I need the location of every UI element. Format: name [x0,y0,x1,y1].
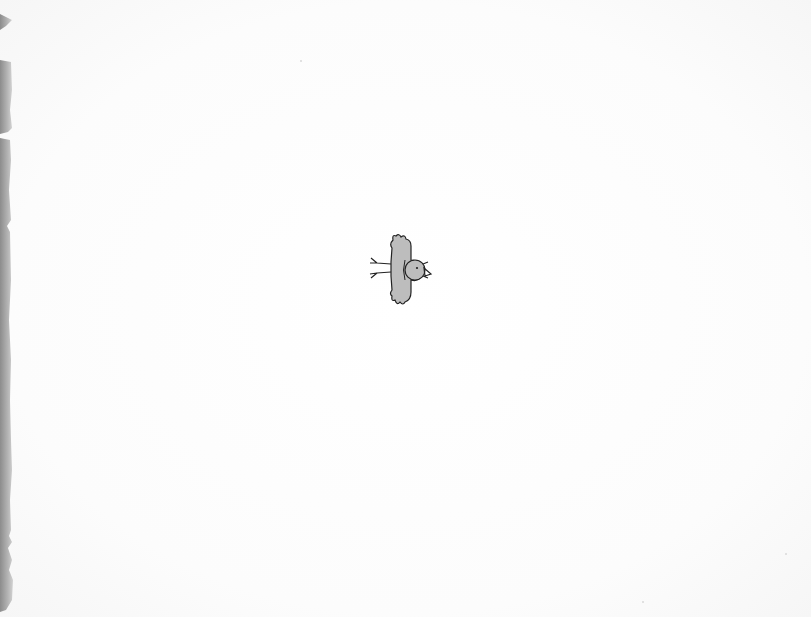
paper-speck [785,553,787,555]
bird-beak [423,262,431,278]
paper-speck [642,601,644,603]
bird-illustration [365,230,435,308]
scanned-page [0,0,811,617]
bird-legs [370,258,391,278]
bird-eye [416,267,418,269]
bird-head [405,260,425,280]
paper-speck [300,60,302,62]
torn-binding-edge [0,0,16,617]
